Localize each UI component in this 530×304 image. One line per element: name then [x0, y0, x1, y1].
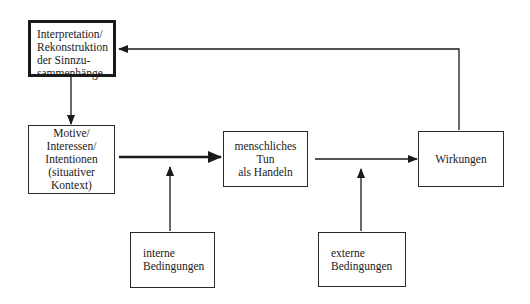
box-motive-line-3: Intentionen — [45, 153, 97, 166]
arrow-feedback-wirkungen-to-interpretation — [119, 49, 459, 130]
box-interpretation-line-2: Rekonstruktion — [37, 41, 108, 54]
box-externe-line-1: externe — [331, 247, 365, 260]
box-handeln: menschliches Tun als Handeln — [223, 131, 308, 187]
box-externe-bedingungen: externe Bedingungen — [318, 232, 406, 287]
box-handeln-line-3: als Handeln — [238, 166, 293, 179]
box-interne-line-1: interne — [143, 247, 175, 260]
box-interpretation-line-4: sammenhänge — [37, 67, 103, 80]
box-interne-bedingungen: interne Bedingungen — [130, 232, 215, 288]
box-motive-line-2: Interessen/ — [47, 140, 97, 153]
box-interne-line-2: Bedingungen — [143, 260, 204, 273]
box-wirkungen: Wirkungen — [418, 131, 504, 187]
box-interpretation-line-1: Interpretation/ — [37, 28, 103, 41]
box-externe-line-2: Bedingungen — [331, 260, 392, 273]
box-handeln-line-1: menschliches — [235, 140, 297, 153]
box-handeln-line-2: Tun — [256, 153, 274, 166]
box-wirkungen-line-1: Wirkungen — [435, 153, 486, 166]
box-interpretation: Interpretation/ Rekonstruktion der Sinnz… — [28, 20, 116, 77]
box-motive-line-4: (situativer — [48, 166, 95, 179]
box-motive: Motive/ Interessen/ Intentionen (situati… — [28, 125, 115, 194]
box-motive-line-1: Motive/ — [53, 127, 89, 140]
box-motive-line-5: Kontext) — [51, 179, 92, 192]
box-interpretation-line-3: der Sinnzu- — [37, 54, 90, 67]
